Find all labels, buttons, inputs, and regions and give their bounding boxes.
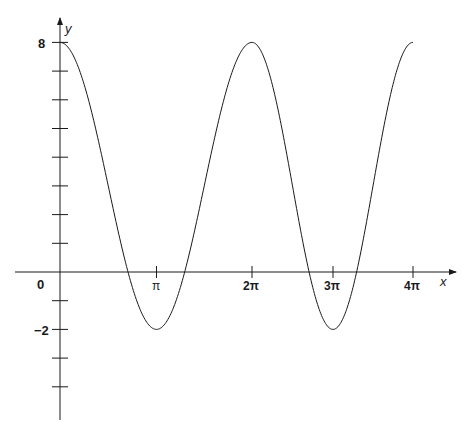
y-label-8: 8 [38, 36, 45, 51]
x-axis-label: x [439, 274, 447, 289]
x-label-2pi: 2π [243, 279, 259, 293]
y-label-neg2: −2 [34, 323, 49, 338]
origin-label: 0 [37, 277, 44, 292]
x-label-pi: π [152, 279, 160, 293]
cosine-curve [60, 42, 413, 329]
y-axis-label: y [64, 21, 73, 36]
x-label-3pi: 3π [324, 279, 340, 293]
chart: y x 0 8 −2 π 2π 3π 4π [0, 0, 476, 431]
x-label-4pi: 4π [404, 279, 420, 293]
plot-area: y x 0 8 −2 π 2π 3π 4π [0, 0, 476, 431]
